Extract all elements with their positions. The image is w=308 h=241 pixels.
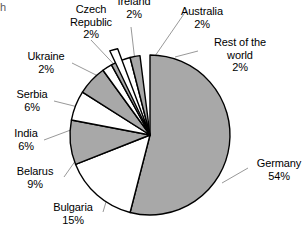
pie-label-australia: Australia 2%: [171, 5, 233, 30]
pie-label-belarus-name: Belarus: [8, 165, 62, 178]
pie-label-germany-name: Germany: [250, 157, 308, 170]
pie-label-serbia-name: Serbia: [9, 88, 55, 101]
pie-label-germany: Germany 54%: [250, 157, 308, 182]
leader-line-germany: [222, 168, 248, 183]
pie-label-ukraine-value: 2%: [20, 63, 72, 76]
pie-label-czech-republic-value: 2%: [57, 28, 125, 41]
pie-label-serbia: Serbia 6%: [9, 88, 55, 113]
pie-label-australia-value: 2%: [171, 18, 233, 31]
pie-label-rest-of-world: Rest of the world 2%: [203, 36, 277, 74]
pie-label-ireland-value: 2%: [107, 8, 161, 21]
pie-label-bulgaria-name: Bulgaria: [44, 201, 102, 214]
pie-label-germany-value: 54%: [250, 170, 308, 183]
pie-label-ukraine-name: Ukraine: [20, 50, 72, 63]
pie-label-serbia-value: 6%: [9, 101, 55, 114]
pie-label-bulgaria-value: 15%: [44, 214, 102, 227]
clipped-edge-glyph: h: [0, 1, 6, 13]
pie-label-ireland: Ireland 2%: [107, 0, 161, 20]
pie-label-india: India 6%: [6, 127, 46, 152]
pie-label-bulgaria: Bulgaria 15%: [44, 201, 102, 226]
leader-line-rest-of-world: [175, 51, 198, 57]
pie-label-india-value: 6%: [6, 140, 46, 153]
pie-label-belarus: Belarus 9%: [8, 165, 62, 190]
pie-label-ukraine: Ukraine 2%: [20, 50, 72, 75]
pie-chart-figure: h Czech Republic 2% Ireland 2% Australia…: [0, 0, 308, 241]
pie-label-rest-of-world-line1: Rest of the: [203, 36, 277, 49]
pie-label-rest-of-world-line2: world: [203, 49, 277, 62]
pie-label-india-name: India: [6, 127, 46, 140]
pie-label-belarus-value: 9%: [8, 178, 62, 191]
pie-label-australia-name: Australia: [171, 5, 233, 18]
pie-label-ireland-name: Ireland: [107, 0, 161, 8]
pie-label-rest-of-world-value: 2%: [203, 61, 277, 74]
